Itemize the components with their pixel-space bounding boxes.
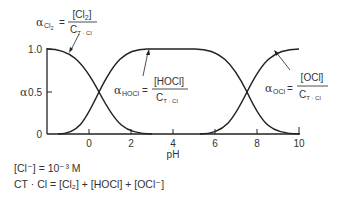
svg-text:CT · Cl: CT · Cl xyxy=(70,24,92,36)
x-tick-6: 6 xyxy=(212,138,218,149)
svg-text:α: α xyxy=(36,16,44,29)
svg-text:Cl2: Cl2 xyxy=(44,22,54,31)
x-axis-label: pH xyxy=(167,149,180,160)
svg-text:=: = xyxy=(59,17,65,28)
x-tick-4: 4 xyxy=(170,138,176,149)
svg-text:[HOCl]: [HOCl] xyxy=(154,76,184,87)
svg-text:CT · Cl: CT · Cl xyxy=(156,92,178,104)
y-tick-0: 0 xyxy=(36,129,42,140)
svg-text:α: α xyxy=(114,84,122,97)
cl2-formula: α Cl2 = [Cl2] CT · Cl xyxy=(36,9,97,36)
hocl-formula: α HOCl = [HOCl] CT · Cl xyxy=(114,76,188,104)
svg-text:=: = xyxy=(287,83,293,94)
ocl-formula: α OCl = [OCl] CT · Cl xyxy=(265,72,328,101)
svg-text:CT · Cl: CT · Cl xyxy=(299,89,321,101)
hocl-arrow xyxy=(143,52,148,76)
chloride-concentration-note: [Cl⁻] = 10⁻³ M xyxy=(14,162,81,174)
svg-text:HOCl: HOCl xyxy=(122,90,140,97)
total-chlorine-definition: CT · Cl = [Cl₂] + [HOCl] + [OCl⁻] xyxy=(14,178,164,190)
svg-text:α: α xyxy=(265,82,273,95)
cl2-arrow xyxy=(71,34,79,50)
svg-text:OCl: OCl xyxy=(273,88,286,95)
x-tick-0: 0 xyxy=(86,138,92,149)
x-tick-8: 8 xyxy=(254,138,260,149)
svg-text:=: = xyxy=(142,85,148,96)
y-tick-1: 1.0 xyxy=(28,44,42,55)
y-tick-05: 0.5 xyxy=(28,87,42,98)
svg-text:[OCl]: [OCl] xyxy=(301,72,324,83)
ocl-arrow xyxy=(276,52,290,70)
svg-text:[Cl2]: [Cl2] xyxy=(73,9,92,21)
x-tick-10: 10 xyxy=(293,138,305,149)
x-tick-2: 2 xyxy=(128,138,134,149)
y-axis-label: α xyxy=(20,86,28,99)
hocl-curve xyxy=(58,49,299,134)
